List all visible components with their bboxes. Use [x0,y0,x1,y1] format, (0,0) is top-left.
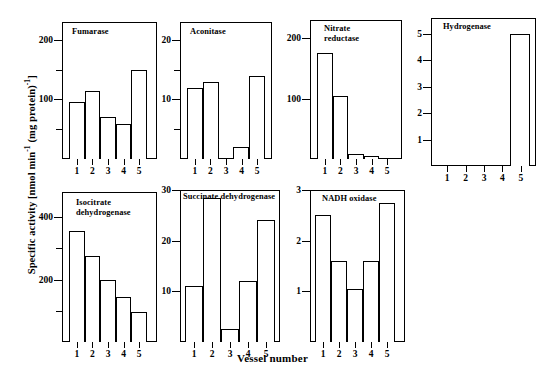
x-axis-tick-label: 3 [228,349,233,359]
x-axis-tick-label: 1 [322,166,327,176]
bar-vessel-5 [131,70,147,159]
y-axis-tick [423,34,432,35]
chart-panel-nadh-oxidase: NADH oxidase12312345 [310,190,405,342]
x-axis-tick-label: 3 [224,166,229,176]
x-axis-tick [92,159,93,165]
y-axis-tick-label: 2 [417,108,422,118]
x-axis-tick-label: 1 [192,166,197,176]
y-axis-tick-label: 3 [296,185,301,195]
y-axis-tick-label: 2 [296,236,301,246]
x-axis-tick [212,342,213,348]
x-axis-tick-label: 5 [385,349,390,359]
x-axis-tick-label: 1 [74,166,79,176]
x-axis-tick-label: 4 [239,166,244,176]
x-axis-tick [124,159,125,165]
x-axis-tick-label: 1 [192,349,197,359]
y-axis-tick [302,291,311,292]
y-axis-tick [172,291,181,292]
y-axis-tick-label: 200 [287,33,301,43]
panel-title: Hydrogenase [443,22,491,32]
bar-vessel-5 [257,220,275,342]
x-axis-tick-label: 4 [121,349,126,359]
bar-vessel-3 [100,117,116,159]
x-axis-tick [226,159,227,165]
chart-panel-nitrate-reductase: Nitrate reductase10020012345 [310,20,402,159]
bar-vessel-4 [116,297,132,342]
x-axis-tick [195,159,196,165]
x-axis-tick [108,342,109,348]
chart-panel-aconitase: Aconitase102012345 [180,22,272,159]
y-axis-tick [56,70,63,71]
y-axis-tick [54,40,63,41]
y-axis-tick [302,190,311,191]
bar-vessel-2 [333,96,349,159]
y-axis-tick-label: 10 [162,94,172,104]
bar-vessel-4 [363,261,379,342]
y-axis-tick [172,99,181,100]
x-axis-tick [387,342,388,348]
bar-vessel-1 [317,53,333,159]
x-axis-tick-label: 2 [338,166,343,176]
x-axis-tick-label: 5 [264,349,269,359]
x-axis-tick-label: 2 [463,173,468,183]
y-axis-label-mid: (mg protein) [26,85,37,145]
chart-panel-succinate-dehydrogenase: Succinate dehydrogenase10203012345 [180,190,280,342]
x-axis-tick [248,342,249,348]
bar-vessel-5 [379,203,395,342]
y-axis-tick-label: 1 [296,286,301,296]
bar-vessel-2 [203,82,219,159]
x-axis-tick-label: 5 [518,173,523,183]
panel-title: Fumarase [72,27,109,37]
y-axis-tick [172,40,181,41]
bar-group [185,190,275,342]
panel-title: Nitrate reductase [324,24,359,43]
y-axis-label-text: Specific activity [nmol min [26,152,37,275]
x-axis-tick-label: 2 [337,349,342,359]
bar-vessel-3 [347,289,363,342]
x-axis-tick-label: 5 [137,349,142,359]
y-axis-tick [423,87,432,88]
bar-vessel-1 [69,102,85,159]
x-axis-tick [387,159,388,165]
x-axis-tick [466,166,467,172]
y-axis-tick-label: 1 [417,135,422,145]
x-axis-tick [521,166,522,172]
x-axis-tick [77,342,78,348]
y-axis-label-sup-2: -1 [23,79,32,85]
bar-group [187,22,265,159]
y-axis-tick [56,248,63,249]
x-axis-tick [92,342,93,348]
bar-vessel-4 [116,124,132,159]
bar-vessel-5 [510,34,530,166]
x-axis-tick-label: 1 [445,173,450,183]
x-axis-tick [502,166,503,172]
y-axis-tick-label: 400 [39,212,53,222]
y-axis-tick-label: 30 [162,185,172,195]
panel-title: NADH oxidase [322,194,376,204]
x-axis-tick-label: 2 [210,349,215,359]
x-axis-tick [325,159,326,165]
y-axis-tick-label: 20 [162,236,172,246]
x-axis-tick [210,159,211,165]
x-axis-tick [124,342,125,348]
y-axis-tick [174,70,181,71]
bar-vessel-1 [185,286,203,342]
y-axis-tick [54,217,63,218]
bar-vessel-5 [131,312,147,342]
y-axis-tick [54,280,63,281]
x-axis-tick-label: 4 [121,166,126,176]
y-axis-label-sup-1: -1 [23,145,32,151]
y-axis-tick [423,60,432,61]
y-axis-tick [56,129,63,130]
bar-vessel-4 [239,281,257,342]
x-axis-tick [484,166,485,172]
x-axis-tick-label: 3 [354,166,359,176]
bar-vessel-5 [249,76,265,159]
bar-vessel-3 [100,280,116,343]
bar-group [69,22,147,159]
panel-title: Isocitrate dehydrogenase [76,198,131,217]
y-axis-tick [302,99,311,100]
y-axis-label-end: ] [26,75,37,79]
x-axis-tick-label: 4 [369,166,374,176]
y-axis-tick [172,241,181,242]
